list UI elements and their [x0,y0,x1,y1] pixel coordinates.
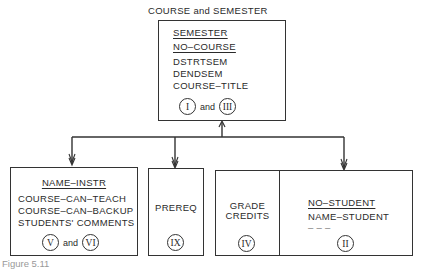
box-divider [279,171,280,255]
ref-group: VandVI [42,233,99,251]
field-name-student: NAME–STUDENT [308,211,389,223]
key-no-course: NO–COURSE [173,41,236,53]
field-dendsem: DENDSEM [173,68,223,80]
ref-group: IV [238,234,255,252]
prereq-box: PREREQ IX [148,168,204,256]
ref-circle-iii: III [219,98,236,115]
field-course-can-backup: COURSE–CAN–BACKUP [18,205,133,217]
ref-circle-vi: VI [82,234,99,251]
enrollment-box: GRADE CREDITS IV NO–STUDENT NAME–STUDENT… [215,170,413,256]
and-label: and [200,102,215,112]
field-students-comments: STUDENTS' COMMENTS [18,217,134,229]
field-course-can-teach: COURSE–CAN–TEACH [18,193,126,205]
ref-circle-v: V [42,234,59,251]
ref-circle-i: I [179,98,196,115]
key-no-student: NO–STUDENT [308,197,375,209]
ref-circle-ii: II [337,235,354,252]
figure-caption: Figure 5.11 [2,258,49,269]
credits-field: CREDITS [216,211,279,221]
prereq-label: PREREQ [149,202,203,214]
and-label: and [63,238,78,248]
field-dstrtsem: DSTRTSEM [173,56,227,68]
key-name-instr: NAME–INSTR [11,177,137,189]
field-ellipsis: – – – [308,222,331,234]
top-entity-title: COURSE and SEMESTER [148,5,268,17]
ref-circle-iv: IV [238,235,255,252]
instructor-box: NAME–INSTR COURSE–CAN–TEACH COURSE–CAN–B… [10,167,138,256]
field-course-title: COURSE–TITLE [173,80,248,92]
ref-group: IX [167,233,184,251]
key-semester: SEMESTER [173,27,228,39]
course-semester-box: SEMESTER NO–COURSE DSTRTSEM DENDSEM COUR… [158,20,286,121]
ref-group: II [337,234,354,252]
ref-group: IandIII [179,97,236,115]
ref-circle-ix: IX [167,234,184,251]
